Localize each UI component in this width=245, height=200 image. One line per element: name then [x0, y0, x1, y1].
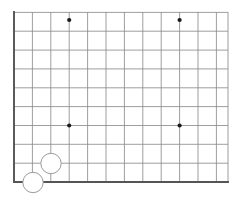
star-point-4-4-lower-left: [67, 123, 71, 127]
go-board-canvas[interactable]: [0, 0, 245, 200]
star-point-4-4-upper-left: [67, 18, 71, 22]
white-stone-1[interactable]: [41, 153, 61, 173]
white-stone-2[interactable]: [23, 172, 43, 192]
go-board-figure: [0, 0, 245, 200]
board-background: [0, 0, 245, 200]
star-point-4-10-lower-right: [178, 123, 182, 127]
star-point-4-10-upper-right: [178, 18, 182, 22]
